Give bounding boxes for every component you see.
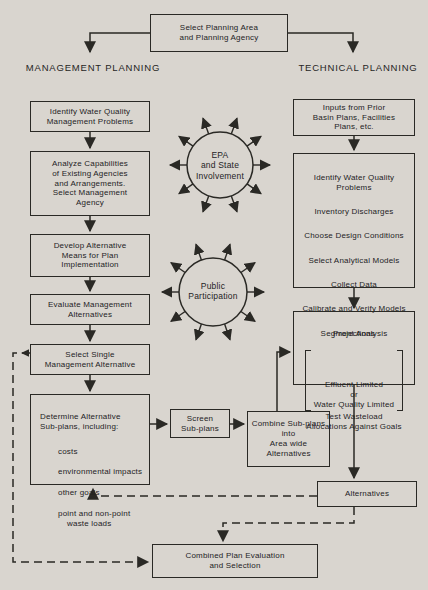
box-determine-subplans: Determine Alternative Sub-plans, includi… [30,394,150,485]
box-analyze-capabilities: Analyze Capabilities of Existing Agencie… [30,151,150,216]
technical-step: Collect Data [298,280,410,290]
segment-analysis-title: Segment Analysis [294,329,414,339]
technical-step: Inventory Discharges [298,207,410,217]
box-screen-subplans: Screen Sub-plans [170,409,230,438]
box-technical-steps: Identify Water Quality Problems Inventor… [293,153,415,288]
box-inputs-prior-plans: Inputs from Prior Basin Plans, Facilitie… [293,99,415,136]
determine-subplans-item: environmental impacts [40,467,145,477]
public-circle-label: Public Participation [169,281,257,302]
bracket-left [305,350,311,411]
management-planning-label: MANAGEMENT PLANNING [18,62,168,73]
bracket-right [397,350,403,411]
box-combined-plan-evaluation: Combined Plan Evaluation and Selection [152,544,318,578]
box-segment-analysis: Segment Analysis Effluent Limited or Wat… [293,311,415,385]
technical-step: Identify Water Quality Problems [298,173,410,193]
box-identify-management-problems: Identify Water Quality Management Proble… [30,101,150,132]
segment-bracket-group: Effluent Limited or Water Quality Limite… [305,350,403,411]
box-select-single-alternative: Select Single Management Alternative [30,344,150,375]
box-select-planning-area: Select Planning Area and Planning Agency [150,14,288,52]
feedback-left-arrowhead [21,349,29,357]
technical-planning-label: TECHNICAL PLANNING [288,62,428,73]
determine-subplans-item: point and non-point waste loads [40,509,145,529]
segment-test-wasteload: Test Wasteload Allocations Against Goals [294,412,414,432]
planning-flowchart: Select Planning Area and Planning Agency… [0,0,428,590]
box-alternatives: Alternatives [317,481,417,507]
determine-subplans-title: Determine Alternative Sub-plans, includi… [40,412,145,432]
epa-circle-label: EPA and State Involvement [176,150,264,181]
box-develop-alternative-means: Develop Alternative Means for Plan Imple… [30,234,150,277]
technical-step: Choose Design Conditions [298,231,410,241]
box-evaluate-management-alternatives: Evaluate Management Alternatives [30,294,150,325]
determine-subplans-item: other goals [40,488,145,498]
determine-subplans-item: costs [40,447,145,457]
technical-step: Select Analytical Models [298,256,410,266]
segment-bracket-text: Effluent Limited or Water Quality Limite… [314,380,394,409]
